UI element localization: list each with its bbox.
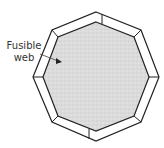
label-line-2: web xyxy=(4,52,44,64)
fusible-web-area xyxy=(43,22,149,131)
label-line-1: Fusible xyxy=(4,40,44,52)
octagon-diagram xyxy=(0,0,164,148)
fusible-web-label: Fusible web xyxy=(4,40,44,64)
